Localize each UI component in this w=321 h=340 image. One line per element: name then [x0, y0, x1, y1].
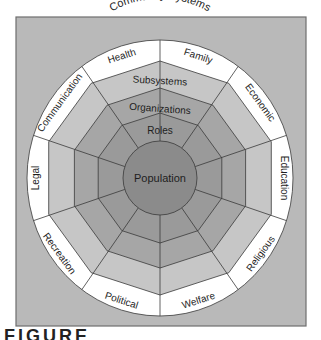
- community-systems-diagram: Community Systems HealthCommunicationLeg…: [0, 0, 321, 340]
- sector-label-education: Education: [279, 156, 290, 200]
- diagram-title: Community Systems: [107, 0, 213, 13]
- sector-label-legal: Legal: [30, 166, 41, 190]
- population-label: Population: [134, 172, 186, 184]
- roles-label: Roles: [147, 125, 173, 136]
- figure-caption: FIGURE: [4, 327, 90, 340]
